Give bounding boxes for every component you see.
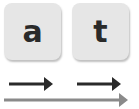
short-arrow-icon-1 (9, 77, 53, 91)
short-arrow-icon-2 (77, 77, 121, 91)
arrows-layer (0, 0, 139, 109)
long-arrow-icon (4, 93, 128, 107)
